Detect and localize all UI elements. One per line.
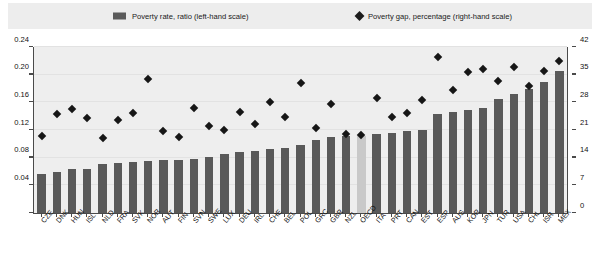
legend-item-poverty-rate: Poverty rate, ratio (left-hand scale)	[113, 12, 249, 21]
diamond-nzl	[342, 130, 350, 138]
diamond-mex	[555, 57, 563, 65]
diamond-isl	[83, 114, 91, 122]
diamond-jpn	[479, 65, 487, 73]
diamond-deu	[235, 108, 243, 116]
diamond-aus	[449, 86, 457, 94]
poverty-chart: Poverty rate, ratio (left-hand scale) Po…	[0, 0, 600, 263]
y-tick-right-42: 42	[572, 34, 600, 43]
diamond-swe	[205, 122, 213, 130]
plot-area	[33, 47, 568, 214]
y-tick-mark-right	[572, 184, 576, 185]
filled-rectangle-icon	[113, 13, 126, 20]
y-tick-mark-right	[572, 129, 576, 130]
legend-label-poverty-rate: Poverty rate, ratio (left-hand scale)	[132, 12, 249, 21]
diamond-tur	[494, 76, 502, 84]
chart-legend: Poverty rate, ratio (left-hand scale) Po…	[8, 3, 592, 29]
diamond-irl	[251, 119, 259, 127]
y-tick-right-7: 7	[572, 172, 600, 181]
diamond-fin	[174, 132, 182, 140]
diamond-nld	[98, 134, 106, 142]
x-axis-labels: CZEDNKHUNISLNLDFRASVKNORAUTFINSVNSWELUXD…	[33, 214, 566, 263]
y-tick-right-21: 21	[572, 117, 600, 126]
diamond-cze	[37, 132, 45, 140]
diamond-can	[403, 109, 411, 117]
diamond-est	[418, 96, 426, 104]
diamond-series	[34, 47, 567, 213]
diamond-che	[266, 98, 274, 106]
y-axis-left: 00.040.080.120.160.200.24	[0, 47, 29, 213]
y-tick-right-28: 28	[572, 89, 600, 98]
y-tick-right-14: 14	[572, 145, 600, 154]
y-tick-right-0: 0	[572, 200, 600, 209]
filled-diamond-icon	[355, 11, 365, 21]
y-tick-right-35: 35	[572, 62, 600, 71]
diamond-bel	[281, 113, 289, 121]
diamond-svn	[190, 104, 198, 112]
diamond-grc	[311, 124, 319, 132]
y-tick-left-0.08: 0.08	[3, 145, 29, 154]
diamond-aut	[159, 127, 167, 135]
legend-label-poverty-gap: Poverty gap, percentage (right-hand scal…	[368, 12, 512, 21]
diamond-dnk	[53, 110, 61, 118]
diamond-fra	[114, 115, 122, 123]
diamond-isr	[540, 66, 548, 74]
y-tick-mark-right	[572, 101, 576, 102]
diamond-chl	[525, 81, 533, 89]
diamond-hun	[68, 105, 76, 113]
legend-item-poverty-gap: Poverty gap, percentage (right-hand scal…	[356, 12, 512, 21]
y-tick-left-0.16: 0.16	[3, 89, 29, 98]
diamond-svk	[129, 109, 137, 117]
y-tick-left-0.20: 0.20	[3, 62, 29, 71]
diamond-oecd	[357, 131, 365, 139]
y-axis-right: 071421283542	[572, 47, 600, 213]
diamond-lux	[220, 126, 228, 134]
diamond-kor	[464, 67, 472, 75]
y-tick-mark-right	[572, 73, 576, 74]
diamond-pol	[296, 78, 304, 86]
diamond-gbr	[327, 100, 335, 108]
y-tick-left-0.24: 0.24	[3, 34, 29, 43]
diamond-prt	[388, 113, 396, 121]
diamond-usa	[509, 63, 517, 71]
diamond-esp	[433, 53, 441, 61]
y-tick-left-0.12: 0.12	[3, 117, 29, 126]
y-tick-left-0.04: 0.04	[3, 172, 29, 181]
diamond-ita	[372, 94, 380, 102]
y-tick-mark-right	[572, 156, 576, 157]
y-tick-mark-right	[572, 46, 576, 47]
diamond-nor	[144, 74, 152, 82]
